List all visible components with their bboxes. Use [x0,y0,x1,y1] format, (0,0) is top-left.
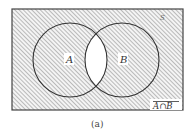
region-label: A∩B [152,101,173,111]
set-a-label: A [65,54,73,65]
venn-diagram: A B S A∩B (a) [0,0,194,136]
universe-label: S [160,14,165,22]
set-b-label: B [119,54,127,65]
figure-caption: (a) [91,119,103,129]
